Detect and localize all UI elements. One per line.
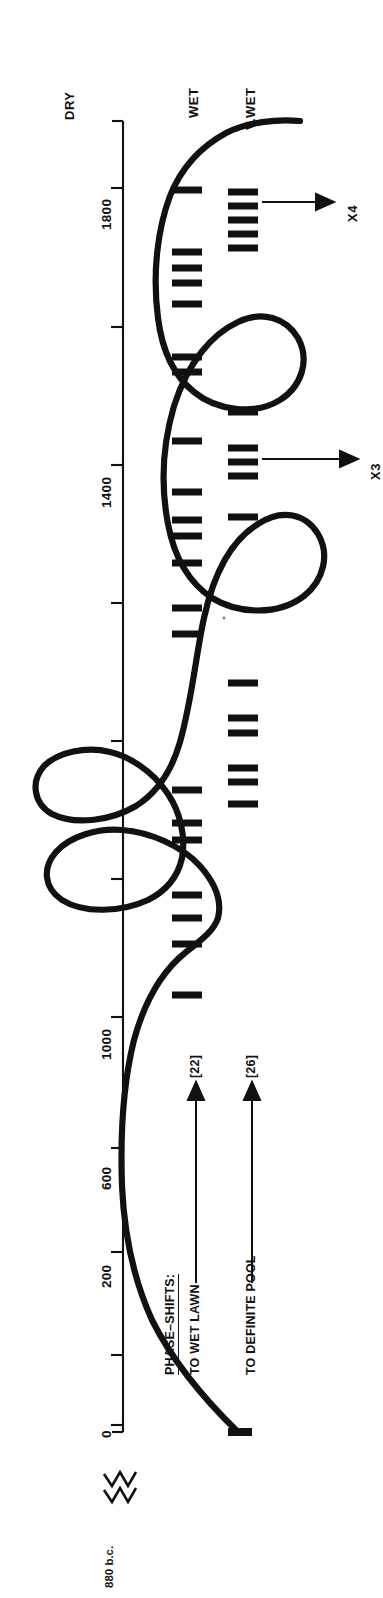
axis-tick-label-1400: 1400 xyxy=(99,477,114,508)
axis-tick-label-200: 200 xyxy=(99,1265,114,1288)
axis-ticks xyxy=(111,188,123,1425)
phase-shift-arrow-2 xyxy=(244,1082,260,1283)
axis-tick-label-0: 0 xyxy=(99,1430,114,1438)
multiplier-label-top: X4 xyxy=(345,205,360,222)
phase-shift-label-definite-pool: TO DEFINITE POOL xyxy=(244,1255,258,1375)
multiplier-label-mid: X3 xyxy=(368,463,383,480)
wetness-curve xyxy=(36,120,325,1432)
multiplier-arrow-mid xyxy=(262,451,358,467)
level-label-vwet: V.WET xyxy=(243,88,258,130)
axis-break-label: 880 b.c. xyxy=(103,1546,115,1588)
phase-shift-arrow-1 xyxy=(188,1082,204,1283)
phase-shift-label-wet-lawn: TO WET LAWN xyxy=(188,1284,202,1375)
time-axis xyxy=(112,121,123,1432)
scan-speck xyxy=(223,617,226,620)
axis-tick-label-1000: 1000 xyxy=(99,1029,114,1060)
phase-shift-ref-wet-lawn: [22] xyxy=(188,1055,202,1078)
level-label-wet: WET xyxy=(186,88,201,118)
event-marks-vwet xyxy=(228,192,258,804)
axis-tick-label-600: 600 xyxy=(99,1167,114,1190)
level-label-dry: DRY xyxy=(62,92,77,120)
axis-break-zigzag xyxy=(104,1472,136,1502)
phase-shift-ref-definite-pool: [26] xyxy=(244,1055,258,1078)
phase-shifts-heading: PHASE–SHIFTS: xyxy=(163,1274,179,1375)
multiplier-arrow-top xyxy=(262,194,334,210)
axis-tick-label-1800: 1800 xyxy=(99,199,114,230)
